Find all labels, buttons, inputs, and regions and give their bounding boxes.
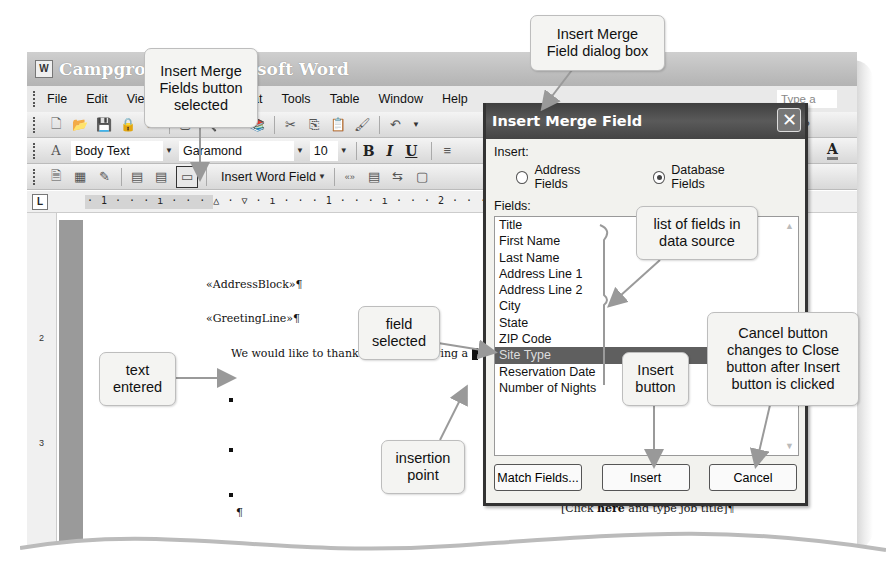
vertical-ruler[interactable]: 2 3 (27, 213, 57, 550)
copy-icon[interactable]: ⎘ (305, 116, 323, 134)
cut-icon[interactable]: ✂ (281, 116, 299, 134)
undo-icon[interactable]: ↶ (386, 116, 404, 134)
styles-and-formatting-icon[interactable]: A (47, 142, 65, 160)
highlight-merge-fields-icon[interactable]: ▤ (365, 168, 383, 186)
address-fields-radio[interactable]: Address Fields (516, 163, 613, 191)
font-color-button[interactable]: A (827, 141, 838, 160)
match-fields-button[interactable]: Match Fields... (494, 464, 582, 491)
insert-button[interactable]: Insert (602, 464, 690, 491)
view-merged-data-icon[interactable]: «» (341, 168, 359, 186)
open-data-source-icon[interactable]: ▦ (71, 168, 89, 186)
open-icon[interactable]: 📂 (71, 116, 89, 134)
tab-selector-icon[interactable]: L (32, 194, 48, 210)
field-item[interactable]: Address Line 2 (495, 282, 798, 298)
toolbar-grip-icon[interactable] (33, 91, 37, 107)
callout-insert-merge-fields-button: Insert Merge Fields button selected (144, 48, 258, 128)
callout-list-of-fields: list of fields in data source (636, 206, 758, 260)
insert-address-block-icon[interactable]: ▤ (128, 168, 146, 186)
database-fields-radio[interactable]: Database Fields (653, 163, 757, 191)
vruler-label: 2 (39, 333, 44, 343)
dialog-title: Insert Merge Field (492, 113, 642, 129)
toolbar-separator (356, 142, 357, 160)
menu-edit[interactable]: Edit (86, 92, 108, 106)
callout-text-entered: text entered (99, 352, 176, 406)
bullet-marker (229, 448, 233, 452)
radio-checked-icon (653, 171, 665, 184)
page-gutter (59, 220, 83, 550)
font-select[interactable]: Garamond (179, 141, 294, 161)
toolbar-separator (379, 116, 380, 134)
callout-dialog-box: Insert Merge Field dialog box (530, 15, 665, 71)
underline-button[interactable]: U (405, 143, 417, 159)
save-icon[interactable]: 💾 (95, 116, 113, 134)
insert-word-field-dropdown-icon[interactable]: ▼ (318, 172, 326, 181)
menu-window[interactable]: Window (379, 92, 423, 106)
toolbar-separator (431, 142, 432, 160)
paragraph-mark: ¶ (236, 506, 243, 519)
bullet-marker (229, 398, 233, 402)
menu-file[interactable]: File (47, 92, 67, 106)
mail-merge-recipients-icon[interactable]: ✎ (95, 168, 113, 186)
radio-unchecked-icon (516, 171, 528, 184)
main-document-setup-icon[interactable]: 🗎 (47, 168, 65, 186)
close-icon[interactable]: ✕ (777, 108, 801, 132)
propagate-labels-icon[interactable]: ▢ (413, 168, 431, 186)
font-dropdown-icon[interactable]: ▼ (296, 146, 304, 155)
word-doc-icon: W (35, 60, 53, 78)
menu-tools[interactable]: Tools (281, 92, 310, 106)
callout-insert-button: Insert button (622, 352, 689, 406)
field-item[interactable]: Address Line 1 (495, 266, 798, 282)
toolbar-separator (334, 168, 335, 186)
callout-insertion-point: insertion point (381, 440, 465, 494)
insert-merge-field-dialog: Insert Merge Field ✕ Insert: Address Fie… (483, 103, 808, 506)
bold-button[interactable]: B (363, 143, 375, 159)
scroll-up-icon[interactable]: ▲ (785, 221, 794, 231)
align-left-icon[interactable]: ≡ (438, 142, 456, 160)
insert-merge-fields-button[interactable]: ▭ (176, 166, 198, 188)
ruler-marks: · 1 · · · ı · · · △ · ▽ · ı · · · 1 · · … (87, 195, 501, 206)
insert-word-field-button[interactable]: Insert Word Field (221, 170, 316, 184)
permission-icon[interactable]: 🔒 (119, 116, 137, 134)
italic-button[interactable]: I (387, 143, 394, 159)
undo-dropdown-icon[interactable]: ▼ (412, 120, 420, 129)
menu-help[interactable]: Help (442, 92, 468, 106)
address-fields-label: Address Fields (534, 163, 612, 191)
insertion-point (472, 348, 478, 360)
address-block-field[interactable]: «AddressBlock»¶ (206, 278, 303, 291)
insert-greeting-line-icon[interactable]: ▤ (152, 168, 170, 186)
scroll-down-icon[interactable]: ▼ (785, 441, 794, 451)
toolbar-grip-icon[interactable] (33, 169, 37, 185)
toolbar-separator (206, 168, 207, 186)
menu-table[interactable]: Table (330, 92, 360, 106)
toolbar-grip-icon[interactable] (33, 117, 37, 133)
toolbar-grip-icon[interactable] (33, 143, 37, 159)
callout-cancel-button: Cancel button changes to Close button af… (707, 312, 859, 406)
paste-icon[interactable]: 📋 (329, 116, 347, 134)
style-dropdown-icon[interactable]: ▼ (165, 146, 173, 155)
font-size-dropdown-icon[interactable]: ▼ (340, 146, 348, 155)
format-painter-icon[interactable]: 🖌 (353, 116, 371, 134)
callout-field-selected: field selected (358, 306, 440, 360)
cancel-button[interactable]: Cancel (709, 464, 797, 491)
style-select[interactable]: Body Text (71, 141, 163, 161)
match-fields-icon[interactable]: ⇆ (389, 168, 407, 186)
toolbar-separator (274, 116, 275, 134)
database-fields-label: Database Fields (671, 163, 757, 191)
greeting-line-field[interactable]: «GreetingLine»¶ (206, 312, 300, 325)
font-size-select[interactable]: 10 (310, 141, 338, 161)
vruler-label: 3 (39, 438, 44, 448)
toolbar-separator (121, 168, 122, 186)
insert-label: Insert: (494, 145, 797, 159)
dialog-title-bar[interactable]: Insert Merge Field (486, 103, 805, 139)
torn-edge (20, 528, 886, 572)
new-document-icon[interactable]: 🗋 (47, 116, 65, 134)
body-text-line[interactable]: We would like to thank you for reserving… (231, 347, 478, 360)
bullet-marker (229, 493, 233, 497)
